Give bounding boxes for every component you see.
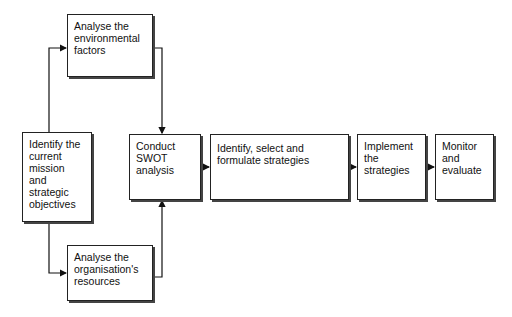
node-resources: Analyse the organisation's resources (67, 245, 153, 301)
node-strategies: Identify, select and formulate strategie… (210, 134, 349, 200)
node-label: Monitor and evaluate (442, 140, 482, 176)
node-implement: Implement the strategies (357, 134, 426, 200)
edge-environment-swot (153, 48, 162, 133)
node-swot: Conduct SWOT analysis (129, 134, 201, 200)
node-label: Implement the strategies (364, 140, 413, 176)
node-label: Analyse the environmental factors (74, 20, 140, 56)
node-label: Analyse the organisation's resources (74, 251, 138, 287)
node-mission: Identify the current mission and strateg… (22, 132, 92, 222)
node-environment: Analyse the environmental factors (67, 14, 153, 77)
node-label: Conduct SWOT analysis (136, 140, 175, 176)
edge-mission-resources (49, 222, 66, 273)
node-label: Identify the current mission and strateg… (29, 138, 80, 210)
node-label: Identify, select and formulate strategie… (217, 142, 309, 166)
node-monitor: Monitor and evaluate (435, 134, 494, 200)
edge-resources-swot (153, 201, 162, 277)
edge-mission-environment (49, 48, 66, 132)
